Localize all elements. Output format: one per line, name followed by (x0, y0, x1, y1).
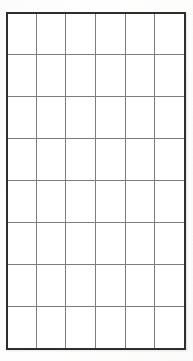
grid-cell-r3-c1[interactable] (7, 97, 37, 139)
grid-cell-r1-c1[interactable] (7, 13, 37, 55)
grid-cell-r7-c3[interactable] (66, 265, 96, 307)
grid-cell-r4-c3[interactable] (66, 139, 96, 181)
grid-cell-r1-c5[interactable] (126, 13, 156, 55)
grid-cell-r7-c1[interactable] (7, 265, 37, 307)
grid-cell-r6-c5[interactable] (126, 223, 156, 265)
grid-cell-r8-c2[interactable] (37, 307, 67, 349)
grid-cell-r4-c2[interactable] (37, 139, 67, 181)
grid-cell-r5-c4[interactable] (96, 181, 126, 223)
grid-table (7, 13, 185, 349)
grid-cell-r8-c3[interactable] (66, 307, 96, 349)
grid-cell-r6-c6[interactable] (155, 223, 185, 265)
grid-cell-r5-c3[interactable] (66, 181, 96, 223)
grid-cell-r8-c5[interactable] (126, 307, 156, 349)
grid-cell-r7-c4[interactable] (96, 265, 126, 307)
grid-cell-r4-c5[interactable] (126, 139, 156, 181)
grid-cell-r5-c2[interactable] (37, 181, 67, 223)
grid-cell-r4-c1[interactable] (7, 139, 37, 181)
grid-cell-r5-c6[interactable] (155, 181, 185, 223)
grid-cell-r6-c1[interactable] (7, 223, 37, 265)
grid-cell-r2-c3[interactable] (66, 55, 96, 97)
grid-cell-r7-c2[interactable] (37, 265, 67, 307)
grid-cell-r4-c4[interactable] (96, 139, 126, 181)
grid-cell-r2-c5[interactable] (126, 55, 156, 97)
grid-cell-r3-c3[interactable] (66, 97, 96, 139)
grid-cell-r1-c2[interactable] (37, 13, 67, 55)
grid-cell-r7-c6[interactable] (155, 265, 185, 307)
grid-cell-r2-c4[interactable] (96, 55, 126, 97)
grid-cell-r3-c5[interactable] (126, 97, 156, 139)
grid-cell-r6-c4[interactable] (96, 223, 126, 265)
grid-cell-r2-c1[interactable] (7, 55, 37, 97)
grid-cell-r5-c1[interactable] (7, 181, 37, 223)
grid-cell-r7-c5[interactable] (126, 265, 156, 307)
grid-cell-r1-c3[interactable] (66, 13, 96, 55)
grid-cell-r3-c2[interactable] (37, 97, 67, 139)
grid-cell-r6-c2[interactable] (37, 223, 67, 265)
grid-cell-r5-c5[interactable] (126, 181, 156, 223)
grid-cell-r8-c4[interactable] (96, 307, 126, 349)
grid-cell-r2-c6[interactable] (155, 55, 185, 97)
scanned-page (0, 0, 193, 361)
grid-cell-r6-c3[interactable] (66, 223, 96, 265)
grid-cell-r3-c6[interactable] (155, 97, 185, 139)
grid-cell-r4-c6[interactable] (155, 139, 185, 181)
grid-cell-r2-c2[interactable] (37, 55, 67, 97)
grid-cell-r1-c6[interactable] (155, 13, 185, 55)
grid-cell-r3-c4[interactable] (96, 97, 126, 139)
grid-cell-r1-c4[interactable] (96, 13, 126, 55)
grid-cell-r8-c1[interactable] (7, 307, 37, 349)
grid-cell-r8-c6[interactable] (155, 307, 185, 349)
